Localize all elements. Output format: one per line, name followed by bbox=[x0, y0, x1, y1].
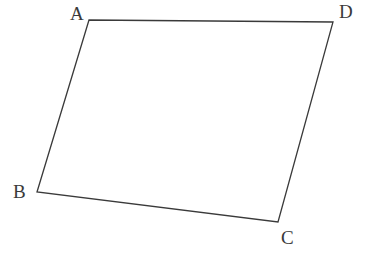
quadrilateral-outline bbox=[37, 20, 333, 222]
figure-canvas: A D C B bbox=[0, 0, 372, 254]
vertex-label-c: C bbox=[281, 228, 294, 247]
vertex-label-a: A bbox=[70, 4, 84, 23]
vertex-label-b: B bbox=[13, 182, 26, 201]
quadrilateral-svg bbox=[0, 0, 372, 254]
vertex-label-d: D bbox=[339, 2, 353, 21]
